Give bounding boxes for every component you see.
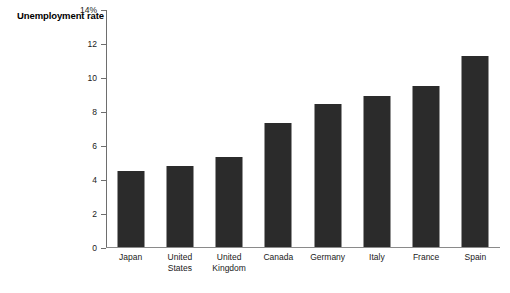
- x-axis-label-line: Germany: [303, 252, 352, 263]
- x-axis-label-line: United: [205, 252, 254, 263]
- bar-slot: [205, 10, 254, 247]
- plot-area: 02468101214%: [106, 10, 500, 248]
- bar-slot: [254, 10, 303, 247]
- y-tick-label: 12: [88, 40, 97, 49]
- y-tick-label: 10: [88, 74, 97, 83]
- bars-layer: [106, 10, 500, 247]
- x-axis-label-line: Spain: [451, 252, 500, 263]
- x-axis-label-italy: Italy: [352, 252, 401, 263]
- bar-italy[interactable]: [363, 96, 390, 248]
- x-axis-label-line: Kingdom: [205, 263, 254, 274]
- chart-axis-title-line-1: Unemployment: [17, 10, 84, 21]
- bar-slot: [155, 10, 204, 247]
- x-axis-label-line: States: [155, 263, 204, 274]
- bar-united-kingdom[interactable]: [216, 157, 243, 247]
- x-axis-label-japan: Japan: [106, 252, 155, 263]
- x-axis-label-line: Canada: [254, 252, 303, 263]
- x-axis-label-united-kingdom: UnitedKingdom: [205, 252, 254, 274]
- x-axis-label-line: Japan: [106, 252, 155, 263]
- x-axis-label-line: France: [402, 252, 451, 263]
- bar-germany[interactable]: [314, 104, 341, 247]
- x-axis-labels: JapanUnitedStatesUnitedKingdomCanadaGerm…: [106, 252, 500, 288]
- bar-slot: [106, 10, 155, 247]
- x-axis-label-line: United: [155, 252, 204, 263]
- x-axis-label-united-states: UnitedStates: [155, 252, 204, 274]
- y-tick-label: 0: [92, 244, 97, 253]
- bar-united-states[interactable]: [166, 166, 193, 247]
- y-tick-label: 14%: [80, 6, 97, 15]
- x-axis-label-canada: Canada: [254, 252, 303, 263]
- bar-spain[interactable]: [462, 56, 489, 247]
- x-axis-label-line: Italy: [352, 252, 401, 263]
- y-tick-mark: [101, 248, 106, 249]
- bar-slot: [303, 10, 352, 247]
- y-tick-label: 8: [92, 108, 97, 117]
- bar-slot: [402, 10, 451, 247]
- bar-slot: [451, 10, 500, 247]
- bar-slot: [352, 10, 401, 247]
- x-axis-line: [106, 247, 500, 248]
- bar-chart-figure: Unemployment rate 02468101214% JapanUnit…: [0, 0, 510, 293]
- bar-canada[interactable]: [265, 123, 292, 247]
- y-tick-label: 4: [92, 176, 97, 185]
- x-axis-label-spain: Spain: [451, 252, 500, 263]
- y-tick-label: 2: [92, 210, 97, 219]
- x-axis-label-germany: Germany: [303, 252, 352, 263]
- bar-france[interactable]: [413, 86, 440, 247]
- y-tick-label: 6: [92, 142, 97, 151]
- x-axis-label-france: France: [402, 252, 451, 263]
- bar-japan[interactable]: [117, 171, 144, 247]
